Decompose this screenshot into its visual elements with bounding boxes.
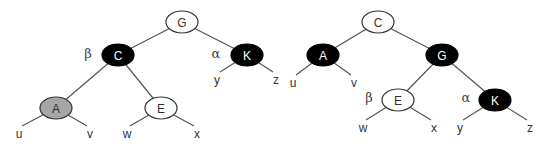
node-label: G — [177, 16, 186, 30]
node-label: A — [319, 49, 327, 63]
leaf-label: x — [194, 127, 200, 141]
leaf-label: v — [87, 127, 93, 141]
leaf-label: z — [273, 73, 279, 87]
node-label: G — [437, 49, 446, 63]
leaf-label: v — [351, 76, 357, 90]
node-label: K — [243, 49, 251, 63]
leaf-label: z — [527, 121, 533, 135]
node-label: C — [114, 49, 123, 63]
annotation-alpha: α — [462, 90, 471, 105]
tree-before: GCKAEuvwxyzβα — [16, 11, 279, 141]
node-C: C — [102, 44, 134, 66]
leaf-label: w — [358, 121, 368, 135]
tree-after: CAGEKuvwxyzβα — [290, 11, 533, 135]
annotation-alpha: α — [212, 46, 221, 61]
node-label: K — [491, 94, 499, 108]
node-K: K — [479, 89, 511, 111]
annotation-beta: β — [84, 46, 92, 61]
node-K: K — [231, 44, 263, 66]
node-A: A — [307, 44, 339, 66]
leaf-label: w — [122, 127, 132, 141]
node-label: C — [374, 16, 383, 30]
leaf-label: u — [290, 76, 297, 90]
node-A: A — [40, 97, 72, 119]
node-E: E — [382, 89, 414, 111]
annotation-beta: β — [365, 90, 373, 105]
node-label: E — [394, 94, 402, 108]
node-C: C — [362, 11, 394, 33]
node-label: A — [52, 102, 60, 116]
node-G: G — [426, 44, 458, 66]
node-E: E — [145, 97, 177, 119]
leaf-label: y — [214, 73, 220, 87]
tree-rotation-diagram: GCKAEuvwxyzβα CAGEKuvwxyzβα — [0, 0, 550, 151]
leaf-label: u — [16, 127, 23, 141]
leaf-label: y — [457, 121, 463, 135]
node-label: E — [157, 102, 165, 116]
leaf-label: x — [431, 121, 437, 135]
node-G: G — [166, 11, 198, 33]
